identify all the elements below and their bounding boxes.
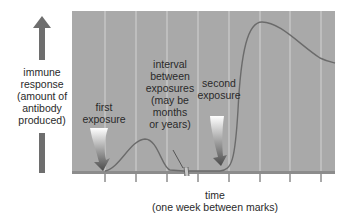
second-exposure-label: second exposure [186, 77, 252, 101]
x-axis-ticks [105, 174, 321, 182]
x-axis-label: time (one week between marks) [140, 189, 290, 213]
y-axis-up-arrow-icon [33, 16, 51, 60]
y-axis-lower-bar [39, 133, 45, 173]
y-axis-label: immune response (amount of antibody prod… [0, 66, 84, 126]
axis-break-icon [184, 167, 189, 176]
first-exposure-label: first exposure [74, 101, 134, 125]
